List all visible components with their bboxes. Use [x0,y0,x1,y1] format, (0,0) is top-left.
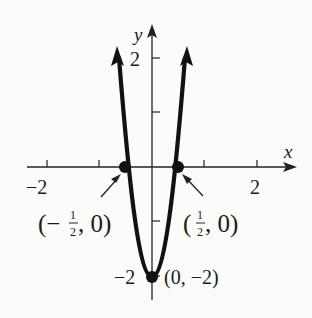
svg-text:2: 2 [197,225,203,239]
x-axis [27,160,297,172]
point-right-intercept [172,161,184,173]
svg-text:(: ( [183,210,191,238]
pointer-left-arrow [101,174,121,197]
label-vertex: (0, −2) [164,266,219,289]
svg-text:, 0): , 0) [78,210,111,238]
point-left-intercept [119,161,131,173]
svg-text:, 0): , 0) [205,210,238,238]
tick-label-x-2: 2 [250,176,260,198]
y-axis [147,24,160,300]
y-axis-label: y [132,24,143,45]
svg-text:(−: (− [38,210,60,238]
svg-text:1: 1 [197,208,203,222]
svg-text:2: 2 [70,225,76,239]
pointer-right-arrow [182,174,203,196]
tick-label-x-neg2: −2 [26,176,47,198]
parabola-graph: y x 2 −2 2 −2 (− 1 2 , 0) ( 1 2 , 0) (0,… [0,0,312,318]
tick-label-y-2: 2 [130,48,140,70]
point-vertex [146,271,158,283]
x-axis-label: x [283,141,293,162]
svg-text:1: 1 [70,208,76,222]
label-left-intercept: (− 1 2 , 0) [38,208,111,239]
tick-label-y-neg2: −2 [114,266,135,288]
label-right-intercept: ( 1 2 , 0) [183,208,238,239]
